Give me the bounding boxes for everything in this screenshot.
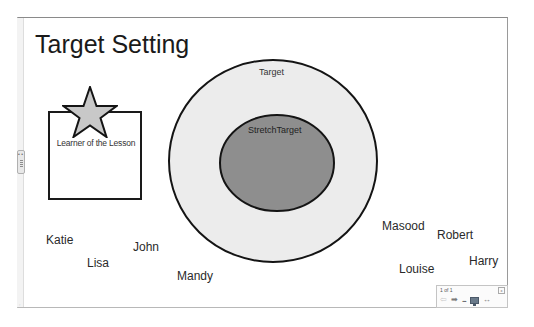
- resize-corner-icon: ◦: [19, 302, 20, 307]
- student-name-louise: Louise: [399, 262, 434, 276]
- student-name-lisa: Lisa: [87, 256, 109, 270]
- next-slide-icon[interactable]: ➡: [451, 295, 458, 305]
- student-name-robert: Robert: [437, 228, 473, 242]
- page-count: 1 of 1: [440, 287, 453, 293]
- student-name-masood: Masood: [382, 219, 425, 233]
- slide-title: Target Setting: [35, 30, 189, 59]
- student-name-mandy: Mandy: [177, 269, 213, 283]
- stretch-target-label: StretchTarget: [248, 125, 302, 135]
- student-name-harry: Harry: [469, 254, 498, 268]
- star-icon: [62, 86, 118, 138]
- close-navigator-button[interactable]: x: [498, 287, 505, 294]
- target-diagram: [167, 58, 381, 264]
- presentation-monitor-icon[interactable]: [470, 297, 479, 304]
- student-name-katie: Katie: [46, 233, 73, 247]
- previous-slide-icon[interactable]: ⇦: [440, 295, 447, 305]
- grip-icon: [20, 160, 23, 168]
- collapse-navigator-icon[interactable]: ↔: [483, 295, 491, 305]
- handle-dots: • •: [18, 151, 23, 157]
- student-name-john: John: [133, 240, 159, 254]
- slide-navigator: 1 of 1 x ⇦ ➡ ... ↔: [436, 285, 508, 308]
- learner-label: Learner of the Lesson: [50, 138, 142, 148]
- target-label: Target: [259, 67, 284, 77]
- more-options-button[interactable]: ...: [462, 295, 466, 305]
